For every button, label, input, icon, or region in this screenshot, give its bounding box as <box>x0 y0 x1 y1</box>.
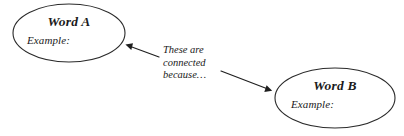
word-b-example-label: Example: <box>275 98 375 110</box>
word-b-title: Word B <box>275 78 395 94</box>
connection-annotation-text: These are connected because… <box>163 44 233 82</box>
diagram-canvas: Word A Example: Word B Example: These ar… <box>0 0 404 136</box>
word-a-example-label: Example: <box>13 34 105 46</box>
word-a-ellipse[interactable] <box>13 4 125 62</box>
arrow-to-word-a-icon <box>125 43 159 57</box>
word-a-title: Word A <box>13 14 125 30</box>
